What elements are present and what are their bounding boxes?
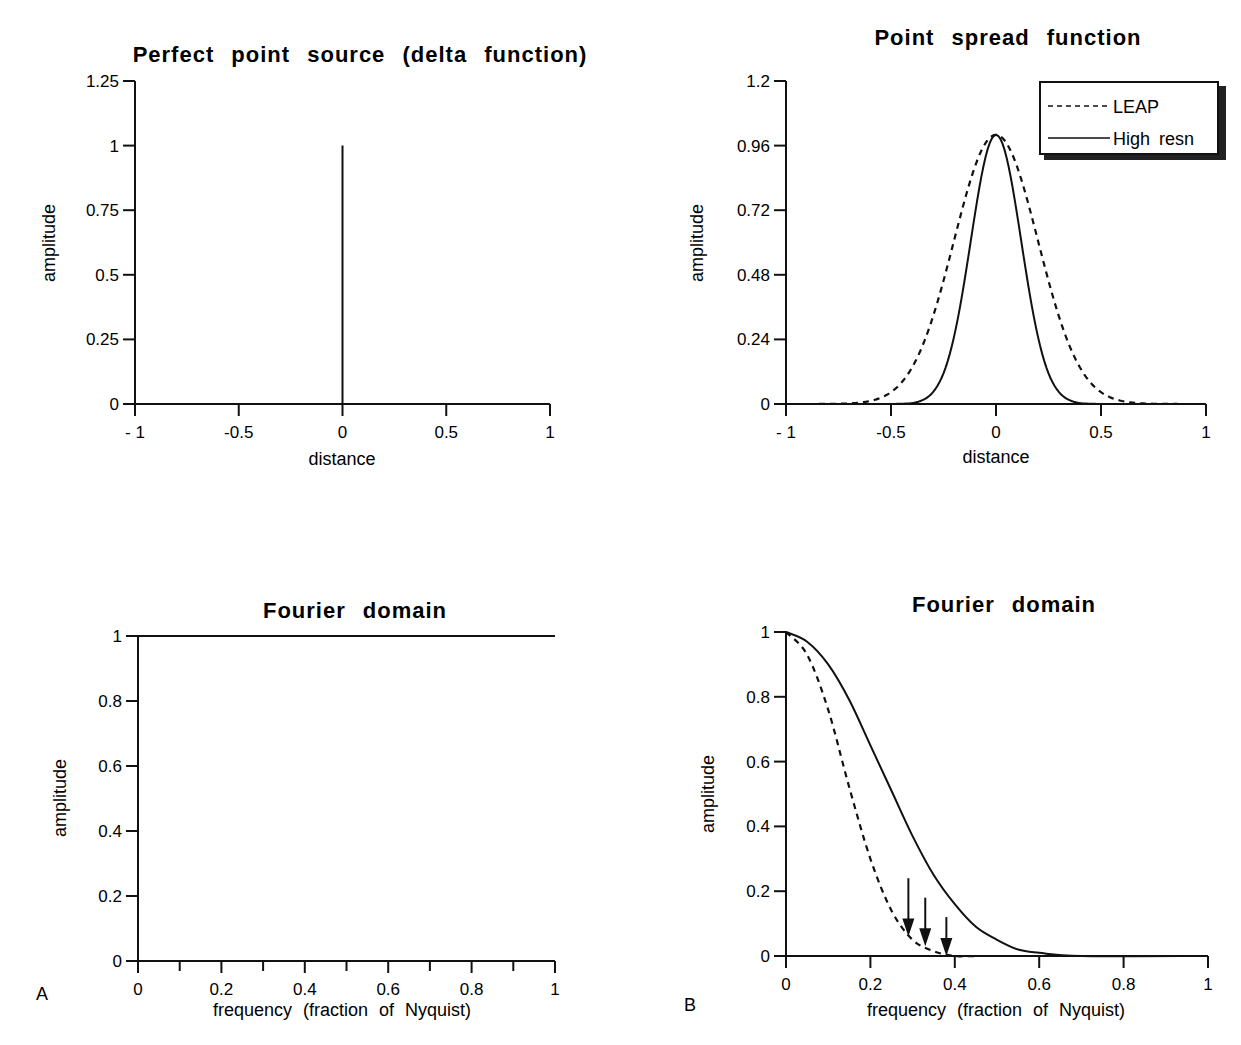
x-axis-label: frequency (fraction of Nyquist): [867, 1000, 1125, 1020]
panel-label-a: A: [36, 984, 48, 1004]
y-axis-label: amplitude: [50, 759, 70, 837]
y-tick-label: 0.2: [98, 887, 122, 906]
x-tick-label: 0.8: [1112, 975, 1136, 994]
series-high-resn-line: [786, 632, 1208, 956]
y-axis-label: amplitude: [39, 204, 59, 282]
chart-A-bottom: Fourier domain00.20.40.60.8100.20.40.60.…: [50, 598, 560, 1020]
series-leap-line: [786, 135, 1206, 404]
chart-title: Perfect point source (delta function): [133, 42, 588, 67]
y-tick-label: 0.4: [98, 822, 122, 841]
x-tick-label: 0.6: [376, 980, 400, 999]
x-tick-label: - 1: [776, 423, 796, 442]
y-tick-label: 0.5: [95, 266, 119, 285]
chart-title: Fourier domain: [263, 598, 447, 623]
y-tick-label: 0.2: [746, 882, 770, 901]
x-tick-label: 0: [781, 975, 790, 994]
x-tick-label: 0.4: [943, 975, 967, 994]
arrow-annotation-icon: [940, 917, 952, 956]
y-axis-label: amplitude: [687, 204, 707, 282]
y-tick-label: 0.8: [98, 692, 122, 711]
x-tick-label: - 1: [125, 423, 145, 442]
y-tick-label: 0: [110, 395, 119, 414]
x-tick-label: 0.8: [460, 980, 484, 999]
y-tick-label: 0.48: [737, 266, 770, 285]
chart-title: Point spread function: [874, 25, 1141, 50]
x-axis-label: frequency (fraction of Nyquist): [213, 1000, 471, 1020]
x-tick-label: 1: [550, 980, 559, 999]
x-axis-label: distance: [308, 449, 375, 469]
y-axis-label: amplitude: [698, 755, 718, 833]
x-tick-label: 0.4: [293, 980, 317, 999]
y-tick-label: 0.4: [746, 817, 770, 836]
chart-B-top: Point spread function- 1-0.500.5100.240.…: [687, 25, 1226, 467]
x-tick-label: 0: [133, 980, 142, 999]
chart-title: Fourier domain: [912, 592, 1096, 617]
y-tick-label: 0.6: [98, 757, 122, 776]
chart-B-bottom: Fourier domain00.20.40.60.8100.20.40.60.…: [698, 592, 1213, 1020]
y-tick-label: 0.96: [737, 137, 770, 156]
legend-label: High resn: [1113, 129, 1194, 149]
x-tick-label: 0.5: [1089, 423, 1113, 442]
legend: LEAPHigh resn: [1040, 82, 1226, 160]
x-axis-label: distance: [962, 447, 1029, 467]
series-delta-line: [135, 146, 550, 404]
legend-label: LEAP: [1113, 97, 1159, 117]
x-tick-label: 0.5: [434, 423, 458, 442]
x-tick-label: 0: [338, 423, 347, 442]
y-tick-label: 1.25: [86, 72, 119, 91]
x-tick-label: 1: [545, 423, 554, 442]
series-high-resn-line: [786, 135, 1206, 404]
x-tick-label: 0.2: [210, 980, 234, 999]
arrow-annotation-icon: [902, 878, 914, 936]
y-tick-label: 0: [761, 395, 770, 414]
x-tick-label: 0: [991, 423, 1000, 442]
y-tick-label: 0.25: [86, 330, 119, 349]
x-tick-label: -0.5: [224, 423, 253, 442]
panel-label-b: B: [684, 995, 696, 1015]
figure-canvas: Perfect point source (delta function)- 1…: [0, 0, 1241, 1045]
x-tick-label: 1: [1203, 975, 1212, 994]
y-tick-label: 0: [761, 947, 770, 966]
y-tick-label: 0.75: [86, 201, 119, 220]
arrow-annotation-icon: [919, 898, 931, 947]
y-tick-label: 1.2: [746, 72, 770, 91]
x-tick-label: 0.6: [1027, 975, 1051, 994]
y-tick-label: 0: [113, 952, 122, 971]
y-tick-label: 0.8: [746, 688, 770, 707]
y-tick-label: 0.6: [746, 753, 770, 772]
y-tick-label: 0.72: [737, 201, 770, 220]
x-tick-label: -0.5: [876, 423, 905, 442]
y-tick-label: 1: [761, 623, 770, 642]
x-tick-label: 1: [1201, 423, 1210, 442]
series-leap-line: [786, 632, 976, 956]
y-tick-label: 1: [113, 627, 122, 646]
y-tick-label: 0.24: [737, 330, 770, 349]
x-tick-label: 0.2: [859, 975, 883, 994]
y-tick-label: 1: [110, 137, 119, 156]
chart-A-top: Perfect point source (delta function)- 1…: [39, 42, 587, 469]
